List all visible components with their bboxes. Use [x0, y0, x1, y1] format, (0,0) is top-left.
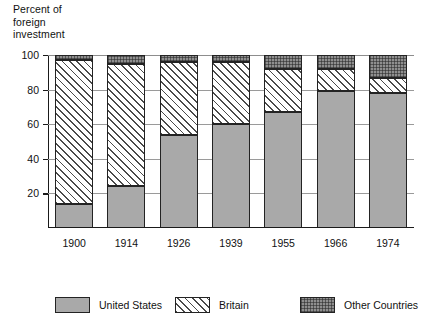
bar-segment-britain: [317, 69, 355, 91]
tick-mark: [43, 124, 48, 125]
bar-segment-united-states: [160, 135, 198, 228]
legend-swatch-united-states: [55, 297, 90, 313]
bar-segment-britain: [264, 69, 302, 112]
bar-segment-united-states: [369, 93, 407, 228]
bar-1955: [264, 55, 302, 228]
legend-item-britain: Britain: [175, 296, 249, 314]
bar-segment-other-countries: [369, 55, 407, 77]
y-axis-tick-label: 100: [21, 50, 39, 61]
bar-segment-britain: [369, 78, 407, 94]
x-axis-label-1974: 1974: [363, 238, 413, 249]
tick-mark: [43, 193, 48, 194]
bar-segment-other-countries: [107, 55, 145, 64]
x-axis-label-1900: 1900: [49, 238, 99, 249]
bar-1926: [160, 55, 198, 228]
x-axis-label-1939: 1939: [206, 238, 256, 249]
x-axis-label-1966: 1966: [311, 238, 361, 249]
bar-1974: [369, 55, 407, 228]
bar-segment-britain: [160, 62, 198, 135]
legend-item-united-states: United States: [55, 296, 162, 314]
x-axis-line: [48, 227, 414, 228]
bar-segment-britain: [107, 64, 145, 187]
legend-swatch-other-countries: [300, 297, 335, 313]
bar-segment-other-countries: [317, 55, 355, 69]
x-axis-label-1926: 1926: [154, 238, 204, 249]
chart-legend: United StatesBritainOther Countries: [0, 296, 439, 320]
legend-label: United States: [99, 300, 162, 311]
x-axis-label-1914: 1914: [101, 238, 151, 249]
tick-mark: [43, 90, 48, 91]
y-axis-tick-label: 40: [27, 154, 39, 165]
legend-swatch-britain: [175, 297, 210, 313]
bar-1966: [317, 55, 355, 228]
x-axis-label-1955: 1955: [258, 238, 308, 249]
bar-1900: [55, 55, 93, 228]
plot-area: 20406080100 1900191419261939195519661974: [48, 55, 414, 228]
bar-segment-united-states: [264, 112, 302, 228]
tick-mark: [43, 55, 48, 56]
y-axis-title: Percent of foreign investment: [13, 3, 65, 41]
y-axis-tick-label: 60: [27, 119, 39, 130]
y-axis-tick-label: 80: [27, 84, 39, 95]
bar-segment-united-states: [107, 186, 145, 228]
bar-segment-united-states: [55, 204, 93, 228]
bar-segment-other-countries: [160, 55, 198, 62]
y-axis-tick-label: 20: [27, 188, 39, 199]
legend-item-other-countries: Other Countries: [300, 296, 418, 314]
bar-segment-other-countries: [264, 55, 302, 69]
bar-1939: [212, 55, 250, 228]
bar-1914: [107, 55, 145, 228]
bar-segment-united-states: [212, 124, 250, 228]
stacked-bar-chart: Percent of foreign investment 2040608010…: [0, 0, 439, 331]
bar-segment-united-states: [317, 91, 355, 228]
bar-segment-britain: [212, 62, 250, 124]
tick-mark: [43, 159, 48, 160]
bar-segment-other-countries: [212, 55, 250, 62]
bar-segment-other-countries: [55, 55, 93, 60]
legend-label: Britain: [219, 300, 249, 311]
bar-segment-britain: [55, 60, 93, 204]
legend-label: Other Countries: [344, 300, 418, 311]
